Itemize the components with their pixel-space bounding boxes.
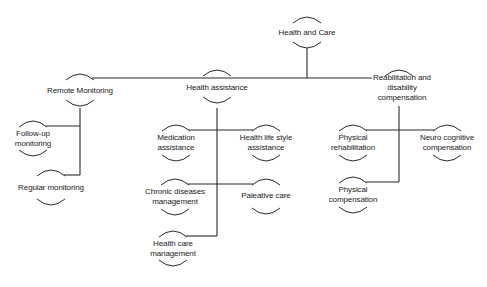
node-paleative-care: Paleative care: [241, 191, 290, 201]
node-regular-monitoring: Regular monitoring: [18, 183, 84, 193]
node-label-line: Neuro cognitive: [420, 133, 474, 143]
node-health-and-care: Health and Care: [279, 28, 336, 38]
node-label: Health assistance: [186, 83, 247, 92]
node-chronic-diseases-management: Chronic diseases management: [145, 187, 205, 207]
node-label: Health and Care: [279, 28, 336, 37]
node-label-line: monitoring: [15, 139, 51, 149]
node-label-line: rehabilitation: [331, 143, 375, 153]
node-reabilitation-and-disability-compensation: Reabilitation and disability compensatio…: [373, 73, 431, 103]
node-physical-rehabilitation: Physical rehabilitation: [331, 133, 375, 153]
node-label-line: assistance: [240, 143, 293, 153]
node-label-line: management: [150, 249, 196, 259]
node-label-line: Health life style: [240, 133, 293, 143]
node-label-line: compensation: [373, 93, 431, 103]
node-physical-compensation: Physical compensation: [329, 185, 378, 205]
node-label-line: disability: [373, 83, 431, 93]
node-label: Regular monitoring: [18, 183, 84, 192]
node-label-line: assistance: [157, 143, 195, 153]
node-label: Paleative care: [241, 191, 290, 200]
node-health-care-management: Health care management: [150, 239, 196, 259]
node-label: Remote Monitoring: [47, 86, 113, 95]
node-label-line: Physical: [331, 133, 375, 143]
node-label-line: Chronic diseases: [145, 187, 205, 197]
node-follow-up-monitoring: Follow-up monitoring: [15, 129, 51, 149]
node-label-line: Reabilitation and: [373, 73, 431, 83]
node-neuro-cognitive-compensation: Neuro cognitive compensation: [420, 133, 474, 153]
node-label-line: Physical: [329, 185, 378, 195]
node-medication-assistance: Medication assistance: [157, 133, 195, 153]
node-label-line: Medication: [157, 133, 195, 143]
node-remote-monitoring: Remote Monitoring: [47, 86, 113, 96]
node-health-life-style-assistance: Health life style assistance: [240, 133, 293, 153]
node-label-line: compensation: [420, 143, 474, 153]
node-label-line: compensation: [329, 195, 378, 205]
node-label-line: management: [145, 197, 205, 207]
node-health-assistance: Health assistance: [186, 83, 247, 93]
node-label-line: Health care: [150, 239, 196, 249]
node-label-line: Follow-up: [15, 129, 51, 139]
